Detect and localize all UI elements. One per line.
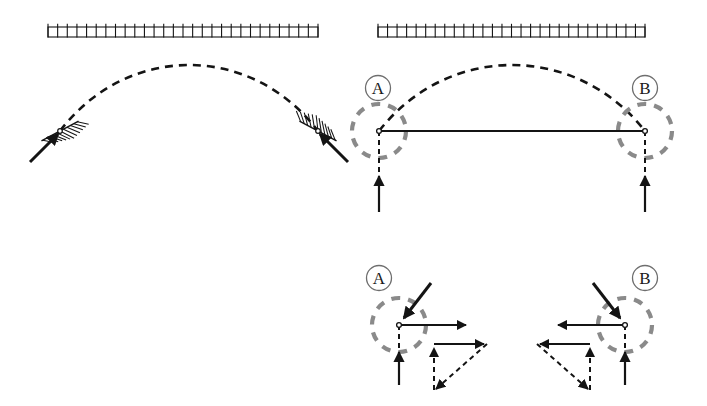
abutment-hatch — [74, 124, 86, 127]
right-hatched-ground-bar — [378, 24, 645, 38]
pin-joint — [58, 129, 63, 134]
free-body-detail-a-label-text: A — [373, 269, 386, 288]
free-body-detail-a-pin — [397, 323, 402, 328]
abutment-thrust-arrow — [30, 134, 58, 162]
free-body-detail-a-label: A — [367, 266, 392, 291]
free-body-detail-b-label-text: B — [639, 269, 650, 288]
joint-a-label-text: A — [372, 79, 385, 98]
joint-b-label-text: B — [639, 79, 650, 98]
figure-canvas: ABAB — [0, 0, 707, 406]
free-body-detail-b-pin — [623, 323, 628, 328]
joint-a-label: A — [366, 76, 391, 101]
joint-a-pin — [377, 129, 382, 134]
right-inclined-abutment — [296, 111, 348, 162]
free-body-detail-b-arch-thrust-arrow — [593, 283, 620, 318]
left-hatched-ground-bar — [48, 24, 318, 38]
joint-b-label: B — [633, 76, 658, 101]
pin-joint — [316, 129, 321, 134]
left-inclined-abutment — [30, 121, 89, 162]
abutment-hatch — [77, 122, 88, 124]
figure-root: ABAB — [0, 0, 707, 406]
force-triangle-b-resultant — [537, 344, 588, 389]
left-dashed-arch-curve — [60, 65, 318, 131]
joint-b-pin — [643, 129, 648, 134]
free-body-detail-b-label: B — [633, 266, 658, 291]
abutment-hatch — [57, 133, 71, 139]
right-dashed-arch-curve — [379, 65, 645, 131]
force-triangle-a-resultant — [436, 344, 487, 389]
